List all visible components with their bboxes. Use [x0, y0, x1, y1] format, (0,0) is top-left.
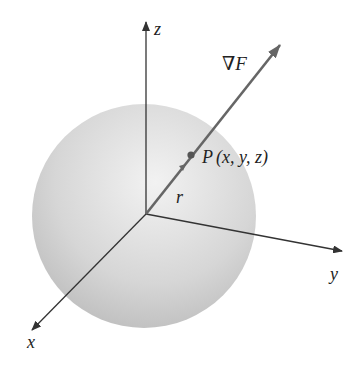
sphere-gradient-diagram: z y x ∇F r P(x, y, z) [0, 0, 363, 367]
point-name: P [201, 147, 213, 167]
y-axis-label: y [328, 264, 338, 284]
point-label: P(x, y, z) [201, 147, 268, 168]
point-coords: (x, y, z) [216, 147, 268, 168]
gradient-label: ∇F [222, 53, 247, 74]
point-p-dot [187, 151, 194, 158]
z-axis-label: z [153, 19, 161, 39]
radius-label: r [176, 187, 184, 207]
x-axis-label: x [26, 332, 35, 352]
